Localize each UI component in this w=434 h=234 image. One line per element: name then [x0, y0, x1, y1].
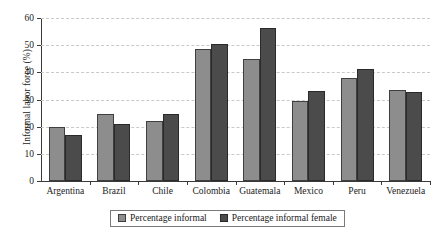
x-tick — [333, 181, 334, 185]
y-tick-label: 50 — [25, 40, 35, 50]
x-tick — [284, 181, 285, 185]
x-axis-label: Brazil — [102, 186, 125, 196]
chart-legend: Percentage informal Percentage informal … — [110, 210, 345, 227]
x-axis-label: Guatemala — [239, 186, 280, 196]
bar — [389, 90, 406, 181]
y-tick-label: 40 — [25, 67, 35, 77]
gridline — [41, 18, 430, 19]
y-tick-label: 10 — [25, 149, 35, 159]
x-tick — [236, 181, 237, 185]
y-tick: 40 — [37, 72, 41, 73]
legend-swatch-informal-female-icon — [220, 214, 228, 222]
bar — [292, 101, 309, 181]
y-tick: 50 — [37, 45, 41, 46]
y-tick: 20 — [37, 127, 41, 128]
bar — [114, 124, 131, 181]
plot-area: 0102030405060 — [41, 18, 430, 181]
y-tick-label: 60 — [25, 13, 35, 23]
y-tick-label: 30 — [25, 95, 35, 105]
legend-label-informal: Percentage informal — [130, 213, 207, 223]
y-tick-label: 20 — [25, 122, 35, 132]
chart-figure: Informal labor force (%) 0102030405060 A… — [0, 0, 434, 234]
bar — [341, 78, 358, 181]
x-axis-label: Venezuela — [386, 186, 425, 196]
bar — [97, 114, 114, 181]
legend-swatch-informal-icon — [118, 214, 126, 222]
legend-item-informal: Percentage informal — [118, 213, 207, 223]
bar — [49, 127, 66, 181]
gridline — [41, 45, 430, 46]
bar — [243, 59, 260, 181]
x-tick — [187, 181, 188, 185]
bar — [308, 91, 325, 181]
y-tick: 0 — [37, 181, 41, 182]
bar — [406, 92, 423, 181]
bar — [260, 28, 277, 181]
bar — [146, 121, 163, 181]
x-tick — [138, 181, 139, 185]
x-axis-label: Colombia — [192, 186, 229, 196]
x-axis-label: Peru — [348, 186, 365, 196]
bar — [357, 69, 374, 181]
legend-item-informal-female: Percentage informal female — [220, 213, 337, 223]
x-tick — [90, 181, 91, 185]
y-tick: 10 — [37, 154, 41, 155]
bar — [195, 49, 212, 181]
y-tick-label: 0 — [29, 176, 34, 186]
bar — [163, 114, 180, 181]
x-axis-label: Chile — [152, 186, 173, 196]
x-tick — [381, 181, 382, 185]
bar — [211, 44, 228, 181]
x-tick — [430, 181, 431, 185]
x-axis-label: Mexico — [294, 186, 323, 196]
y-tick: 60 — [37, 18, 41, 19]
bar — [65, 135, 82, 181]
y-tick: 30 — [37, 100, 41, 101]
x-axis-label: Argentina — [46, 186, 84, 196]
legend-label-informal-female: Percentage informal female — [232, 213, 337, 223]
